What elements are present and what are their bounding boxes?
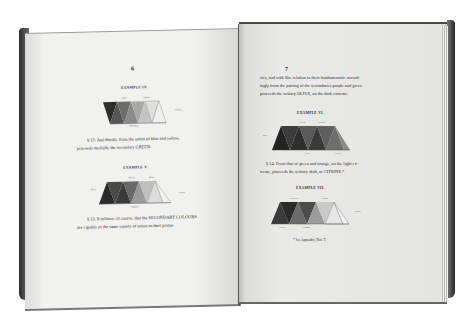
example-v-triangle-diagram xyxy=(99,178,175,206)
example-iv-title: EXAMPLE IV. xyxy=(121,85,148,90)
label: Red xyxy=(122,97,126,100)
label: Olive xyxy=(305,152,310,155)
label: Yellow xyxy=(321,197,328,200)
label: Yellow xyxy=(143,96,150,99)
book-cover-right xyxy=(447,20,455,298)
example-vi-triangle-diagram xyxy=(272,124,352,152)
page-edges-right xyxy=(441,26,448,302)
label: Blue xyxy=(149,176,154,179)
label: Orange xyxy=(303,226,310,229)
example-vii-triangle-diagram xyxy=(271,200,351,226)
left-page: 6 EXAMPLE IV. Red Yellow Yellow ORANGE §… xyxy=(25,28,241,311)
open-book: 6 EXAMPLE IV. Red Yellow Yellow ORANGE §… xyxy=(17,20,455,308)
paragraph-14a-line-2: are capable of the same variety of union… xyxy=(77,222,174,232)
label: ORANGE xyxy=(129,124,139,127)
example-vi-title: EXAMPLE VI. xyxy=(297,111,324,115)
footnote: * See Appendix, Note T. xyxy=(293,238,326,242)
label: White xyxy=(355,210,361,213)
label: Purple xyxy=(319,121,325,124)
label: GREEN xyxy=(131,205,139,208)
right-page: 7 ries, and with like relation to their … xyxy=(239,22,447,304)
page-number: 6 xyxy=(131,65,134,71)
page-number: 7 xyxy=(285,66,288,72)
paragraph-13-line-2: proceeds medially the secondary GREEN. xyxy=(77,143,151,153)
label: Blue xyxy=(91,188,96,191)
paragraph-cont-line-1: ries, and with like relation to their fu… xyxy=(260,74,360,82)
paragraph-cont-line-3: proceeds the tertiary OLIVE, on the dark… xyxy=(260,90,348,98)
paragraph-14-line-1: § 14. From that of green and orange, on … xyxy=(266,160,358,168)
label: Yellow xyxy=(175,108,182,111)
label: Yellow xyxy=(128,176,135,179)
example-iv-triangle-diagram xyxy=(103,99,173,127)
label: Green xyxy=(299,121,305,124)
label: CITRINE xyxy=(289,197,298,200)
example-vii-title: EXAMPLE VII. xyxy=(296,186,325,190)
label: Green xyxy=(279,226,285,229)
label: Green xyxy=(179,191,185,194)
example-v-title: EXAMPLE V. xyxy=(123,165,148,170)
paragraph-cont-line-2: ingly from the pairing of the secondarie… xyxy=(260,82,362,90)
paragraph-14-line-2: treme, proceeds the tertiary drab, or CI… xyxy=(260,168,345,176)
label: Green xyxy=(335,152,341,155)
label: Blue xyxy=(263,134,268,137)
